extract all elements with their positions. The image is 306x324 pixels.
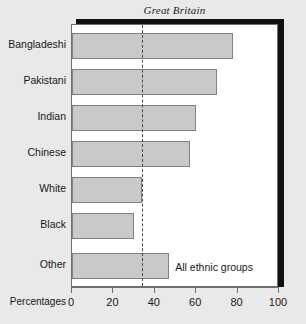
plot-area: All ethnic groups (71, 24, 278, 287)
category-label-bangladeshi: Bangladeshi (0, 38, 66, 50)
bar-indian[interactable] (72, 105, 196, 131)
bar-bangladeshi[interactable] (72, 33, 233, 59)
chart-figure: Great Britain (0, 0, 306, 324)
x-tick-20 (112, 287, 113, 293)
x-axis-label: Percentages (2, 296, 66, 307)
x-tick-label-20: 20 (92, 296, 132, 308)
x-tick-40 (154, 287, 155, 293)
x-tick-label-80: 80 (217, 296, 257, 308)
bar-chinese[interactable] (72, 141, 190, 167)
x-tick-label-60: 60 (175, 296, 215, 308)
x-tick-label-100: 100 (258, 296, 298, 308)
x-axis-line (71, 287, 278, 288)
bar-pakistani[interactable] (72, 69, 217, 95)
average-reference-label: All ethnic groups (175, 261, 253, 273)
category-label-other: Other (0, 258, 66, 270)
category-label-chinese: Chinese (0, 146, 66, 158)
category-label-pakistani: Pakistani (0, 74, 66, 86)
x-tick-80 (237, 287, 238, 293)
x-tick-100 (278, 287, 279, 293)
bars-layer: All ethnic groups (72, 25, 277, 286)
average-reference-line (142, 25, 143, 286)
page-title: Great Britain (71, 4, 278, 16)
x-tick-60 (195, 287, 196, 293)
bar-other[interactable] (72, 253, 169, 279)
x-tick-label-40: 40 (134, 296, 174, 308)
bar-black[interactable] (72, 213, 134, 239)
category-label-black: Black (0, 218, 66, 230)
category-label-white: White (0, 182, 66, 194)
x-tick-0 (71, 287, 72, 293)
bar-white[interactable] (72, 177, 142, 203)
category-label-indian: Indian (0, 110, 66, 122)
